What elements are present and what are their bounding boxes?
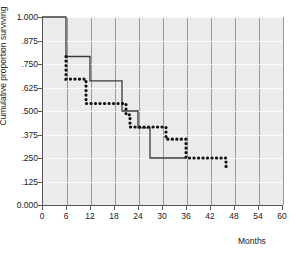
y-axis-tick bbox=[38, 41, 42, 42]
x-axis-tick bbox=[90, 206, 91, 210]
x-axis-tick bbox=[114, 206, 115, 210]
x-axis-tick-label: 6 bbox=[54, 212, 78, 221]
x-axis-tick bbox=[186, 206, 187, 210]
y-axis-tick-label: 1.000 bbox=[0, 13, 38, 22]
y-axis-tick bbox=[38, 64, 42, 65]
x-axis-tick bbox=[258, 206, 259, 210]
solid-step-curve bbox=[42, 17, 186, 158]
y-axis-tick-label: .375 bbox=[0, 131, 38, 140]
x-axis-tick bbox=[234, 206, 235, 210]
x-axis-tick-label: 36 bbox=[174, 212, 198, 221]
x-axis-tick bbox=[162, 206, 163, 210]
x-axis-tick-label: 42 bbox=[198, 212, 222, 221]
x-axis-tick-label: 60 bbox=[270, 212, 294, 221]
x-axis-tick-label: 54 bbox=[246, 212, 270, 221]
y-axis-tick bbox=[38, 182, 42, 183]
x-axis-tick bbox=[42, 206, 43, 210]
y-axis-tick bbox=[38, 158, 42, 159]
y-axis-tick-label: 0.000 bbox=[0, 201, 38, 210]
y-axis-tick-label: .750 bbox=[0, 60, 38, 69]
y-axis-tick-label: .250 bbox=[0, 154, 38, 163]
x-axis-tick-label: 12 bbox=[78, 212, 102, 221]
x-axis-tick bbox=[282, 206, 283, 210]
y-axis-tick-label: .125 bbox=[0, 178, 38, 187]
x-axis-tick-label: 18 bbox=[102, 212, 126, 221]
y-axis-tick-label: .500 bbox=[0, 107, 38, 116]
chart-figure: Cumulative proportion surviving Months 0… bbox=[0, 0, 300, 254]
x-axis-tick bbox=[66, 206, 67, 210]
x-axis-tick-label: 48 bbox=[222, 212, 246, 221]
y-axis-tick-label: .625 bbox=[0, 84, 38, 93]
x-axis-tick-label: 24 bbox=[126, 212, 150, 221]
x-axis-tick bbox=[210, 206, 211, 210]
x-axis-tick-label: 30 bbox=[150, 212, 174, 221]
y-axis-tick bbox=[38, 135, 42, 136]
x-axis-tick bbox=[138, 206, 139, 210]
y-axis-tick bbox=[38, 17, 42, 18]
y-axis-tick bbox=[38, 88, 42, 89]
x-axis-tick-label: 0 bbox=[30, 212, 54, 221]
y-axis-tick-label: .875 bbox=[0, 37, 38, 46]
y-axis-tick bbox=[38, 111, 42, 112]
